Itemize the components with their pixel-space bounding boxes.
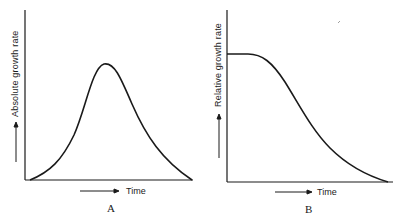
panel-a-y-axis-label: Absolute growth rate <box>10 30 20 117</box>
panel-b-axes <box>227 10 393 182</box>
panel-a-x-arrow-icon <box>80 189 119 193</box>
panel-b-label: B <box>305 203 312 215</box>
stray-mark <box>338 21 340 23</box>
panel-a-y-arrow-icon <box>14 122 18 162</box>
panel-a-curve <box>30 64 192 180</box>
panel-a-axes <box>25 10 193 180</box>
panel-a-x-axis-label: Time <box>126 186 146 196</box>
panel-b-curve <box>227 54 388 182</box>
panel-b-x-arrow-icon <box>275 190 312 194</box>
diagram-canvas <box>0 0 406 223</box>
panel-a-label: A <box>107 202 115 214</box>
panel-b-x-axis-label: Time <box>317 187 337 197</box>
panel-b-y-axis-label: Relative growth rate <box>213 23 223 107</box>
panel-b-y-arrow-icon <box>217 114 221 158</box>
